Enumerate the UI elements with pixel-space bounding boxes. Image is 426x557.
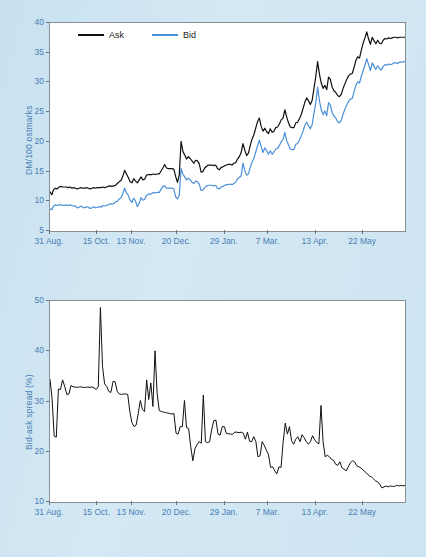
x-tick-mark xyxy=(176,230,177,234)
y-tick-label: 5 xyxy=(19,225,44,235)
x-tick-mark xyxy=(267,501,268,505)
line-series-ask xyxy=(50,32,405,195)
y-tick-label: 40 xyxy=(19,17,44,27)
y-tick-mark xyxy=(46,300,49,301)
series-canvas-top xyxy=(50,23,405,231)
legend-bid: Bid xyxy=(152,30,196,40)
x-tick-label: 22 May xyxy=(332,507,392,517)
x-tick-mark xyxy=(315,501,316,505)
y-tick-label: 30 xyxy=(19,396,44,406)
y-tick-mark xyxy=(46,401,49,402)
chart-panel-top: DM/100 ostmarks Ask Bid 510152025303540 … xyxy=(0,0,426,268)
x-tick-mark xyxy=(224,501,225,505)
x-tick-mark xyxy=(315,230,316,234)
y-tick-mark xyxy=(46,200,49,201)
legend-label-bid: Bid xyxy=(183,30,196,40)
series-canvas-bottom xyxy=(50,301,405,502)
y-axis-label-bottom: Bid-ask spread (%) xyxy=(24,374,34,450)
legend-ask: Ask xyxy=(78,30,124,40)
x-tick-mark xyxy=(131,501,132,505)
y-tick-label: 10 xyxy=(19,496,44,506)
x-tick-label: 22 May xyxy=(332,236,392,246)
y-tick-label: 40 xyxy=(19,345,44,355)
y-tick-mark xyxy=(46,350,49,351)
figure-container: DM/100 ostmarks Ask Bid 510152025303540 … xyxy=(0,0,426,557)
y-tick-mark xyxy=(46,22,49,23)
x-tick-mark xyxy=(96,501,97,505)
x-tick-mark xyxy=(49,501,50,505)
x-tick-mark xyxy=(131,230,132,234)
legend-swatch-bid xyxy=(152,34,178,36)
y-tick-label: 15 xyxy=(19,166,44,176)
x-tick-mark xyxy=(224,230,225,234)
x-tick-mark xyxy=(362,501,363,505)
line-series-bid-ask-spread xyxy=(50,308,405,488)
y-tick-label: 10 xyxy=(19,195,44,205)
plot-area-top xyxy=(49,22,406,232)
y-tick-mark xyxy=(46,52,49,53)
y-tick-label: 20 xyxy=(19,136,44,146)
legend-swatch-ask xyxy=(78,34,104,36)
plot-area-bottom xyxy=(49,300,406,503)
x-tick-mark xyxy=(362,230,363,234)
y-tick-mark xyxy=(46,81,49,82)
y-tick-mark xyxy=(46,451,49,452)
y-tick-label: 25 xyxy=(19,106,44,116)
y-tick-mark xyxy=(46,171,49,172)
y-tick-label: 30 xyxy=(19,76,44,86)
x-tick-mark xyxy=(176,501,177,505)
x-tick-mark xyxy=(267,230,268,234)
legend-label-ask: Ask xyxy=(109,30,124,40)
y-tick-label: 35 xyxy=(19,47,44,57)
y-tick-label: 50 xyxy=(19,295,44,305)
chart-panel-bottom: Bid-ask spread (%) 1020304050 31 Aug.15 … xyxy=(0,278,426,540)
y-tick-mark xyxy=(46,111,49,112)
y-tick-label: 20 xyxy=(19,446,44,456)
x-tick-mark xyxy=(96,230,97,234)
x-tick-mark xyxy=(49,230,50,234)
y-tick-mark xyxy=(46,141,49,142)
